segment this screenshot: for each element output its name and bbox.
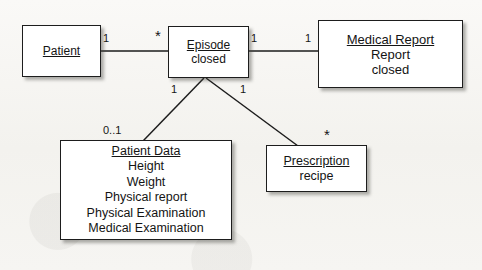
class-name-prescription: Prescription [284,154,350,169]
class-attribute-prescription-0: recipe [299,169,333,184]
class-attribute-patient-data-4: Medical Examination [88,221,203,237]
multiplicity-episode-right-end: 1 [251,33,257,44]
multiplicity-episode-to-prescription-end: 1 [240,84,246,95]
class-box-patient-data[interactable]: Patient Data Height Weight Physical repo… [60,140,232,240]
class-name-episode: Episode [187,38,230,52]
class-box-episode[interactable]: Episode closed [168,26,249,78]
multiplicity-episode-left-end: * [155,31,161,40]
multiplicity-episode-to-patient-data-end: 1 [171,84,177,95]
class-name-patient: Patient [43,44,80,58]
multiplicity-patient-data-end: 0..1 [103,125,121,136]
class-attribute-patient-data-1: Weight [127,175,166,191]
association-episode-prescription [206,78,298,146]
class-attribute-patient-data-2: Physical report [105,190,188,206]
multiplicity-prescription-end: * [324,130,330,139]
class-box-prescription[interactable]: Prescription recipe [266,145,367,192]
class-box-patient[interactable]: Patient [22,25,101,77]
class-attribute-episode-0: closed [191,52,226,66]
class-name-patient-data: Patient Data [112,144,181,160]
class-box-medical-report[interactable]: Medical Report Report closed [318,20,463,88]
class-attribute-medical-report-1: closed [372,62,410,77]
multiplicity-patient-end: 1 [103,33,109,44]
class-name-medical-report: Medical Report [347,32,434,47]
uml-class-diagram: Patient Episode closed Medical Report Re… [0,0,482,270]
class-attribute-patient-data-0: Height [128,159,164,175]
class-attribute-patient-data-3: Physical Examination [87,206,206,222]
multiplicity-medical-report-end: 1 [305,33,311,44]
class-attribute-medical-report-0: Report [371,47,410,62]
